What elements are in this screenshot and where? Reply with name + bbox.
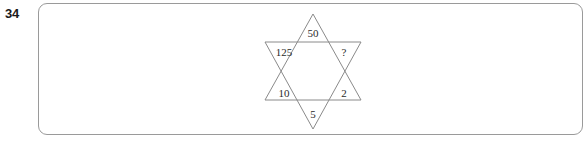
star-label-top: 50 [308,27,320,39]
star-figure-container: 50 125 ? 10 2 5 [258,6,370,136]
star-label-lower-left: 10 [279,87,291,99]
hexagram-star-figure: 50 125 ? 10 2 5 [258,6,370,136]
item-number: 34 [5,7,19,21]
star-label-upper-left: 125 [276,46,293,58]
star-label-upper-right: ? [342,46,347,58]
star-label-lower-right: 2 [341,87,347,99]
star-label-bottom: 5 [310,108,316,120]
question-item: 34 50 125 ? 10 2 5 [0,0,587,142]
